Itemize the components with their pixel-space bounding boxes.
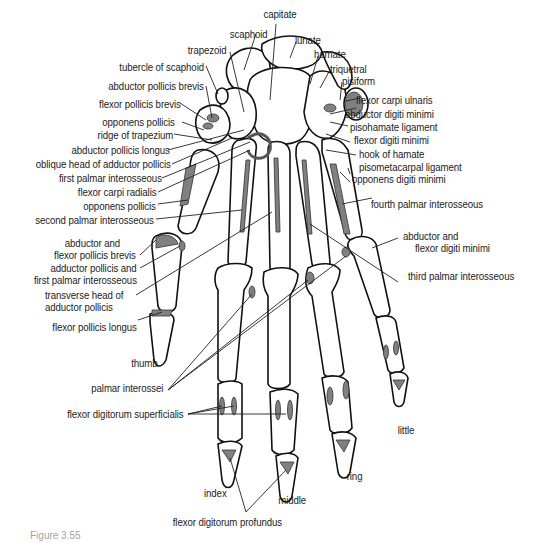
little-fds-left [384,345,389,359]
label-capitate: capitate [263,8,296,20]
label-flexor-carpi-radialis: flexor carpi radialis [77,186,156,198]
middle-fds-right [288,400,293,420]
apb-attachment [207,114,219,122]
label-oblique-head-adductor-pollicis: oblique head of adductor pollicis [36,158,171,170]
label-flexor-pollicis-brevis-2: flexor pollicis brevis [54,249,136,261]
label-little: little [398,424,415,436]
little-abductor-attachment [342,247,350,257]
label-third-palmar-interosseous: third palmar interosseous [408,270,514,282]
middle-proximal-phalanx [263,268,298,389]
label-palmar-interossei: palmar interossei [91,382,163,394]
label-trapezoid: trapezoid [188,44,227,56]
label-abductor-pollicis-longus: abductor pollicis longus [72,144,170,156]
figure-caption: Figure 3.55 [30,530,81,541]
label-fourth-palmar-interosseous: fourth palmar interosseous [371,198,483,210]
index-distal-phalanx [218,441,242,487]
label-flexor-digitorum-profundus: flexor digitorum profundus [173,516,282,528]
label-hamate: hamate [314,48,346,60]
label-pisiform: pisiform [342,75,375,87]
middle-middle-phalanx [270,389,298,454]
label-abductor-digiti-minimi: abductor digiti minimi [345,108,434,120]
ring-interossei-attachment [306,272,314,284]
label-opponens-pollicis: opponens pollicis [102,116,175,128]
ring-fds-left [327,387,333,405]
label-adductor-pollicis: adductor pollicis [45,301,113,313]
label-tubercle-of-scaphoid: tubercle of scaphoid [119,61,204,73]
label-flexor-digitorum-superficialis: flexor digitorum superficialis [68,408,184,420]
label-flexor-digiti-minimi: flexor digiti minimi [354,134,429,146]
little-proximal-phalanx [348,237,390,318]
label-lunate: lunate [295,34,321,46]
label-ridge-of-trapezium: ridge of trapezium [97,129,173,141]
label-middle: middle [278,494,306,506]
label-opponens-pollicis-2: opponens pollicis [83,200,156,212]
middle-fds-left [276,400,281,420]
label-hook-of-hamate: hook of hamate [359,148,424,160]
label-flexor-pollicis-brevis: flexor pollicis brevis [99,98,181,110]
label-pisometacarpal-ligament: pisometacarpal ligament [359,161,462,173]
ring-fds-right [343,381,349,399]
index-proximal-phalanx [215,264,252,383]
label-first-palmar-interosseous-2: first palmar interosseous [34,274,137,286]
label-opponens-digiti-minimi: opponens digiti minimi [352,173,446,185]
label-flexor-pollicis-longus: flexor pollicis longus [53,321,137,333]
label-adductor-pollicis-and: adductor pollicis and [51,262,137,274]
label-first-palmar-interosseous: first palmar interosseous [59,172,162,184]
adm-attachment [324,104,336,112]
label-index: index [204,487,227,499]
label-flexor-carpi-ulnaris: flexor carpi ulnaris [356,94,433,106]
little-middle-phalanx [376,316,404,374]
label-transverse-head-of: transverse head of [45,289,123,301]
label-abductor-pollicis-brevis: abductor pollicis brevis [108,80,204,92]
label-abductor-and: abductor and [65,237,120,249]
fpl-attachment [152,310,172,316]
label-scaphoid: scaphoid [230,28,268,40]
label-flexor-digiti-minimi-2: flexor digiti minimi [415,242,490,254]
label-thumb: thumb [131,357,157,369]
fpb-attachment [203,123,213,129]
little-fds-right [394,341,399,355]
tubercle-of-scaphoid [216,88,228,104]
label-pisohamate-ligament: pisohamate ligament [350,121,437,133]
trapezium-bone [196,105,230,143]
label-triquetral: triquetral [330,63,367,75]
label-second-palmar-interosseous: second palmar interosseous [36,214,154,226]
label-ring: ring [347,470,363,482]
label-abductor-and-2: abductor and [403,230,458,242]
